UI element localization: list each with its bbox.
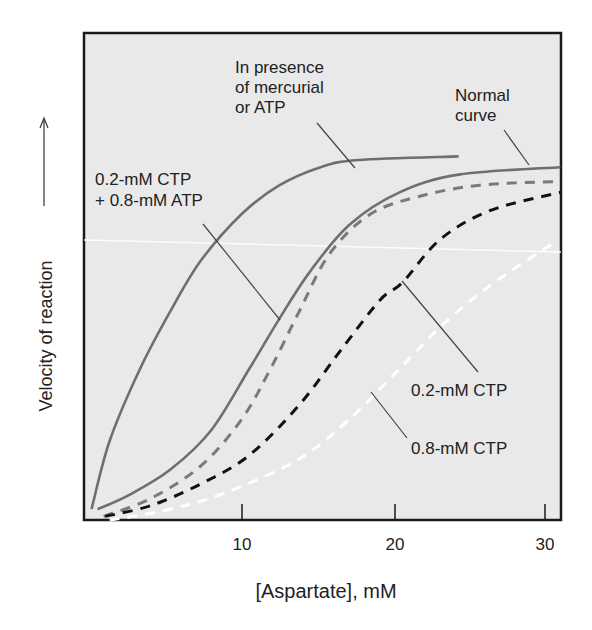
x-tick-label-30: 30	[536, 535, 555, 554]
annotation-normal-line2: curve	[455, 106, 497, 125]
y-axis-label: Velocity of reaction	[36, 260, 56, 411]
annotation-mercurial-line3: or ATP	[235, 98, 286, 117]
annotation-mercurial-line2: of mercurial	[235, 78, 324, 97]
annotation-ctp02: 0.2-mM CTP	[411, 381, 507, 400]
annotation-normal-line1: Normal	[455, 86, 510, 105]
annotation-ctp-atp-line2: + 0.8-mM ATP	[95, 191, 203, 210]
x-tick-label-10: 10	[233, 535, 252, 554]
annotation-ctp-atp-line1: 0.2-mM CTP	[95, 170, 191, 189]
y-axis-arrow-icon	[40, 118, 48, 206]
chart: 10 20 30 [Aspartate], mM Velocity of rea…	[0, 0, 592, 630]
x-axis-label: [Aspartate], mM	[255, 580, 396, 602]
annotation-ctp08: 0.8-mM CTP	[411, 439, 507, 458]
annotation-mercurial-line1: In presence	[235, 58, 324, 77]
x-tick-label-20: 20	[386, 535, 405, 554]
